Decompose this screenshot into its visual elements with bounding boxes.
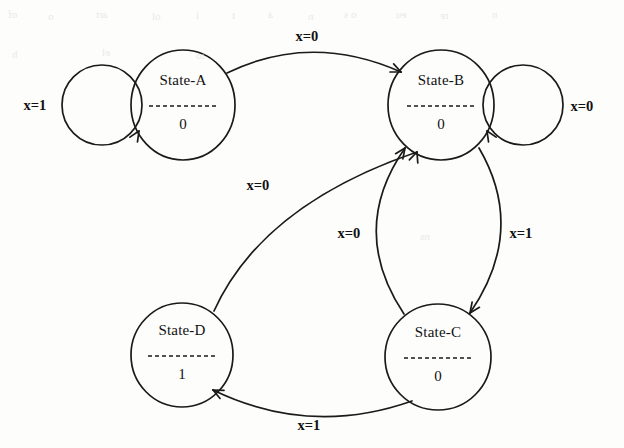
transition-arc-a-to-b: [227, 52, 401, 73]
transition-label-c-to-d: x=1: [298, 417, 321, 433]
transition-label-b-self: x=0: [571, 98, 594, 114]
self-loop-arc-a-self: [62, 65, 142, 145]
state-circle-D: [131, 303, 233, 407]
state-output-C: 0: [434, 368, 442, 384]
states-layer: State-A0State-B0State-C0State-D1: [131, 50, 494, 410]
state-name-C: State-C: [415, 324, 461, 340]
state-output-D: 1: [178, 366, 186, 382]
state-circle-B: [388, 50, 494, 160]
state-name-B: State-B: [418, 72, 464, 88]
state-output-B: 0: [437, 116, 445, 132]
state-node-A[interactable]: State-A0: [131, 50, 235, 160]
transition-arc-d-to-b: [214, 152, 417, 311]
self-loop-arc-b-self: [483, 65, 563, 145]
fsm-diagram-canvas: State-A0State-B0State-C0State-D1 x=1x=0x…: [0, 0, 624, 448]
transition-label-b-to-c: x=1: [510, 225, 533, 241]
transition-arc-b-to-c: [470, 148, 501, 313]
transition-a-to-b[interactable]: [227, 52, 401, 73]
transition-c-to-b[interactable]: [376, 148, 405, 314]
state-name-D: State-D: [158, 322, 205, 338]
transition-label-d-to-b: x=0: [247, 177, 270, 193]
fsm-svg-root: State-A0State-B0State-C0State-D1 x=1x=0x…: [0, 0, 624, 448]
transition-b-to-c[interactable]: [470, 148, 501, 313]
transition-a-self[interactable]: [62, 65, 142, 145]
state-circle-C: [385, 304, 491, 410]
transition-label-a-to-b: x=0: [296, 28, 319, 44]
transition-labels-layer: x=1x=0x=0x=1x=0x=1x=0: [24, 28, 594, 433]
state-circle-A: [131, 50, 235, 160]
transition-arc-c-to-b: [376, 148, 405, 314]
transition-label-a-self: x=1: [24, 97, 47, 113]
transitions-layer: [62, 52, 563, 416]
state-output-A: 0: [179, 116, 187, 132]
transition-b-self[interactable]: [483, 65, 563, 145]
state-name-A: State-A: [159, 72, 206, 88]
state-node-C[interactable]: State-C0: [385, 304, 491, 410]
transition-label-c-to-b: x=0: [338, 225, 361, 241]
state-node-D[interactable]: State-D1: [131, 303, 233, 407]
transition-arc-c-to-d: [213, 390, 412, 417]
state-node-B[interactable]: State-B0: [388, 50, 494, 160]
transition-d-to-b[interactable]: [214, 152, 418, 311]
transition-c-to-d[interactable]: [213, 390, 412, 417]
